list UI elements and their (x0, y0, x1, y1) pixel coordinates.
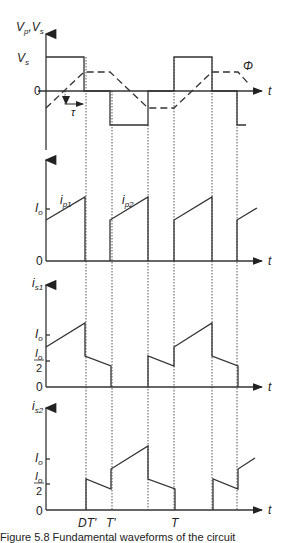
panel-primary-current: Io 0 t ip1 ip2 (35, 160, 272, 268)
x-axis-label: t (268, 254, 272, 268)
is2-segment-2 (213, 458, 255, 510)
tau-label: τ (71, 106, 76, 118)
x-axis-label: t (268, 84, 272, 98)
ip1-label: ip1 (60, 193, 72, 209)
is2-segment-1 (86, 446, 175, 510)
tick-zero: 0 (34, 84, 41, 98)
y-axis-label: is2 (32, 399, 44, 415)
time-mark-t-prime: T' (106, 516, 116, 530)
phi-label: Φ (243, 59, 253, 73)
time-mark-t: T (171, 516, 180, 530)
panel-switch1-current: is1 Io Io 2 0 t (32, 276, 272, 394)
tick-vs: Vs (17, 51, 29, 67)
y-axis-label: Vp,Vs (16, 20, 44, 36)
time-guides (86, 57, 237, 510)
tick-zero: 0 (36, 254, 43, 268)
flux-waveform (46, 72, 248, 108)
y-axis-label: is1 (32, 276, 43, 292)
panel-voltage: Vp,Vs Vs 0 t Φ τ (16, 20, 272, 150)
time-mark-dt-prime: DT' (78, 516, 97, 530)
x-axis-label: t (268, 503, 272, 517)
x-axis-label: t (268, 380, 272, 394)
is1-segment-1 (46, 323, 111, 387)
ip1-segment-2 (174, 197, 212, 261)
ip2-label: ip2 (122, 193, 134, 209)
tick-half-io-den: 2 (36, 362, 42, 374)
tick-io: Io (35, 327, 43, 343)
is1-segment-2 (148, 323, 238, 387)
figure-caption: Figure 5.8 Fundamental waveforms of the … (0, 531, 293, 543)
panel-switch2-current: is2 Io Io 2 0 t DT' T' T (32, 399, 272, 530)
tick-zero: 0 (36, 504, 43, 518)
tick-zero: 0 (36, 380, 43, 394)
ip2-segment-2 (237, 208, 257, 261)
tick-io: Io (35, 201, 43, 217)
tick-half-io-den: 2 (36, 485, 42, 497)
tick-io: Io (35, 451, 43, 467)
